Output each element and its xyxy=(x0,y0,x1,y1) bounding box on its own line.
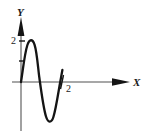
sine-curve xyxy=(21,40,62,121)
y-tick-label-2: 2 xyxy=(11,36,16,46)
y-axis-label: Y xyxy=(17,7,24,18)
x-axis-arrow-icon xyxy=(112,78,130,86)
x-axis-label: X xyxy=(133,77,140,88)
y-axis-arrow-icon xyxy=(18,17,25,36)
x-tick-label-2: 2 xyxy=(66,84,71,94)
figure-container: Y X 2 2 xyxy=(0,0,147,135)
plot-canvas xyxy=(0,0,147,135)
